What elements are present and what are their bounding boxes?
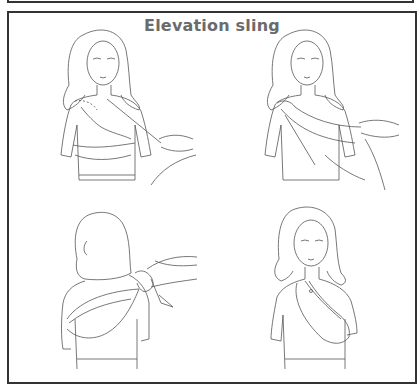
rear-view-tying-knot-icon bbox=[11, 199, 211, 379]
woman-bandage-under-arm-icon bbox=[11, 15, 211, 195]
woman-bandage-over-arm-icon bbox=[215, 15, 415, 195]
step-3-illustration bbox=[11, 199, 211, 379]
step-1-illustration bbox=[11, 15, 211, 195]
step-4-illustration bbox=[215, 199, 415, 379]
elevation-sling-figure: Elevation sling bbox=[7, 11, 417, 384]
previous-section-box bbox=[7, 0, 414, 3]
completed-elevation-sling-icon bbox=[215, 199, 415, 379]
step-2-illustration bbox=[215, 15, 415, 195]
